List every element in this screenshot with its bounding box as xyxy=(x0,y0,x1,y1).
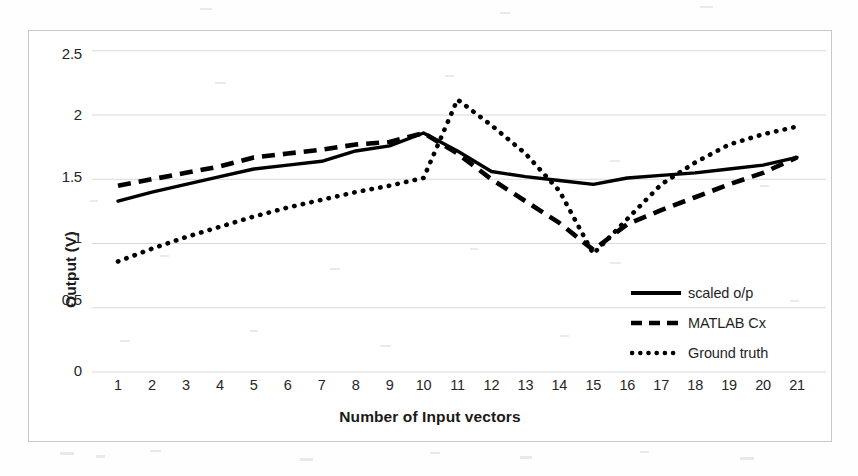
legend-swatch-dotted-icon xyxy=(630,346,682,360)
series-line-ground-truth xyxy=(118,100,797,262)
plot-lines xyxy=(0,0,858,476)
legend-item-scaled-op[interactable]: scaled o/p xyxy=(630,278,820,308)
chart-root: Output (V) 2.5 2 1.5 1 0.5 0 12345678910… xyxy=(0,0,858,476)
chart-legend: scaled o/p MATLAB Cx Ground truth xyxy=(630,278,820,368)
series-line-scaled-o-p xyxy=(118,133,797,201)
legend-label-scaled-op: scaled o/p xyxy=(688,285,753,301)
legend-label-ground-truth: Ground truth xyxy=(688,345,768,361)
legend-label-matlab-cx: MATLAB Cx xyxy=(688,315,766,331)
legend-item-matlab-cx[interactable]: MATLAB Cx xyxy=(630,308,820,338)
legend-swatch-dashed-icon xyxy=(630,316,682,330)
legend-swatch-solid-icon xyxy=(630,286,682,300)
legend-item-ground-truth[interactable]: Ground truth xyxy=(630,338,820,368)
